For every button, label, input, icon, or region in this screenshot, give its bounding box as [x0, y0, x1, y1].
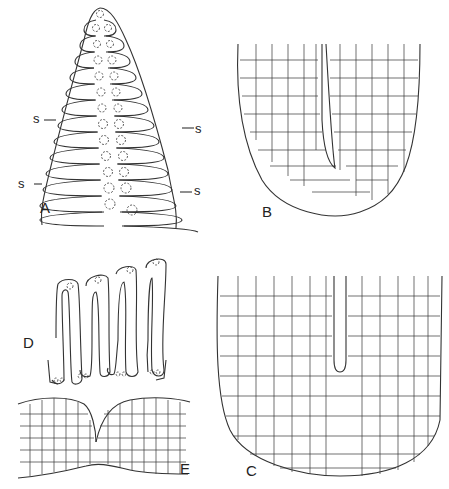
annotation-s-right-lower: s — [194, 184, 201, 197]
annotation-s-right-upper: s — [195, 122, 202, 135]
panel-e-drawing — [18, 398, 190, 478]
panel-d-drawing — [48, 259, 166, 384]
panel-a-drawing — [34, 8, 198, 232]
panel-b-drawing — [238, 44, 420, 216]
panel-label-d: D — [23, 335, 34, 350]
panel-label-c: C — [246, 463, 257, 478]
annotation-s-left-lower: s — [18, 177, 25, 190]
panel-label-e: E — [180, 461, 190, 476]
figure-drawing — [0, 0, 449, 489]
panel-label-b: B — [262, 204, 272, 219]
panel-label-a: A — [40, 200, 50, 215]
panel-c-drawing — [217, 276, 442, 476]
annotation-s-left-upper: s — [33, 112, 40, 125]
